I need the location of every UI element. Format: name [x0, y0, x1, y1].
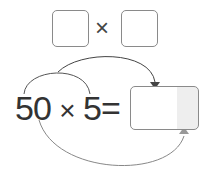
- equals-sign: =: [101, 88, 120, 128]
- arrow-top-to-answer: [58, 57, 155, 82]
- operand-a: 50: [15, 88, 51, 128]
- operator: ×: [59, 91, 74, 131]
- answer-box[interactable]: [130, 86, 199, 130]
- multiplication-expression: 50 × 5=: [15, 88, 120, 131]
- operand-b: 5: [83, 88, 101, 128]
